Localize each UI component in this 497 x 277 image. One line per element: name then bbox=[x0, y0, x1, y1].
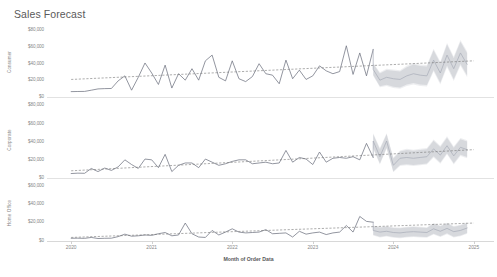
y-tick-label: $60,000 bbox=[28, 43, 44, 48]
x-axis: 202020212022202320242025 Month of Order … bbox=[0, 241, 497, 277]
y-tick-label: $40,000 bbox=[28, 60, 44, 65]
x-tick-mark bbox=[474, 241, 475, 244]
page-title: Sales Forecast bbox=[14, 8, 85, 20]
panel-corporate: Corporate $80,000 $60,000 $40,000 $20,00… bbox=[0, 103, 497, 177]
panel-consumer: Consumer $80,000 $60,000 $40,000 $20,000… bbox=[0, 28, 497, 96]
panel-divider bbox=[47, 97, 494, 98]
y-tick-label: $40,000 bbox=[28, 201, 44, 206]
panel-axis-label-home-office: Home Office bbox=[7, 199, 12, 226]
y-tick-label: $60,000 bbox=[28, 183, 44, 188]
x-tick-mark bbox=[71, 241, 72, 244]
plot-area-home-office: $60,000 $40,000 $20,000 $0 bbox=[47, 184, 494, 241]
y-tick-label: $20,000 bbox=[28, 77, 44, 82]
panel-home-office: Home Office $60,000 $40,000 $20,000 $0 bbox=[0, 184, 497, 241]
x-tick-mark bbox=[152, 241, 153, 244]
plot-area-consumer: $80,000 $60,000 $40,000 $20,000 $0 bbox=[47, 28, 494, 96]
panel-divider bbox=[47, 178, 494, 179]
x-tick-label: 2020 bbox=[66, 245, 77, 250]
chart-svg-corporate bbox=[47, 103, 494, 177]
x-axis-line bbox=[47, 241, 494, 242]
x-tick-mark bbox=[393, 241, 394, 244]
y-tick-label: $0 bbox=[39, 174, 44, 179]
x-axis-title: Month of Order Data bbox=[0, 256, 497, 262]
y-tick-label: $80,000 bbox=[28, 27, 44, 32]
x-tick-label: 2021 bbox=[146, 245, 157, 250]
chart-svg-home-office bbox=[47, 184, 494, 241]
y-tick-label: $60,000 bbox=[28, 120, 44, 125]
y-tick-label: $20,000 bbox=[28, 219, 44, 224]
x-tick-label: 2025 bbox=[469, 245, 480, 250]
plot-area-corporate: $80,000 $60,000 $40,000 $20,000 $0 bbox=[47, 103, 494, 177]
x-tick-mark bbox=[232, 241, 233, 244]
y-tick-label: $80,000 bbox=[28, 102, 44, 107]
y-tick-label: $20,000 bbox=[28, 156, 44, 161]
x-tick-label: 2024 bbox=[388, 245, 399, 250]
x-tick-label: 2023 bbox=[307, 245, 318, 250]
x-tick-label: 2022 bbox=[227, 245, 238, 250]
chart-svg-consumer bbox=[47, 28, 494, 96]
sales-forecast-dashboard: Sales Forecast Consumer $80,000 $60,000 … bbox=[0, 0, 497, 277]
x-tick-mark bbox=[313, 241, 314, 244]
panel-axis-label-corporate: Corporate bbox=[7, 129, 12, 150]
panel-axis-label-consumer: Consumer bbox=[7, 51, 12, 73]
y-tick-label: $40,000 bbox=[28, 138, 44, 143]
y-tick-label: $0 bbox=[39, 93, 44, 98]
